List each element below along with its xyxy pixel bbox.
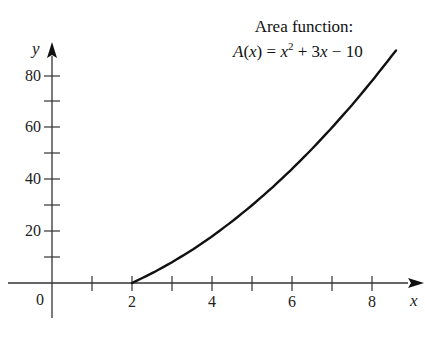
chart-title: Area function: xyxy=(255,17,354,36)
y-tick-label-40: 40 xyxy=(25,170,41,187)
y-tick-label-60: 60 xyxy=(25,118,41,135)
chart-formula: A(x) = x2 + 3x − 10 xyxy=(232,40,363,61)
y-tick-label-20: 20 xyxy=(25,222,41,239)
x-tick-label-4: 4 xyxy=(208,293,216,310)
y-axis-arrow-icon xyxy=(47,42,57,58)
x-tick-label-6: 6 xyxy=(288,293,296,310)
x-axis-label: x xyxy=(409,291,418,310)
y-axis-label: y xyxy=(30,39,40,58)
x-tick-label-8: 8 xyxy=(368,293,376,310)
x-axis-arrow-icon xyxy=(408,278,424,288)
y-tick-label-80: 80 xyxy=(25,67,41,84)
x-tick-label-0: 0 xyxy=(36,291,44,308)
x-tick-label-2: 2 xyxy=(128,293,136,310)
chart: 0 2 4 6 8 20 40 60 80 x y Area function:… xyxy=(0,0,425,341)
area-function-curve xyxy=(132,51,396,283)
